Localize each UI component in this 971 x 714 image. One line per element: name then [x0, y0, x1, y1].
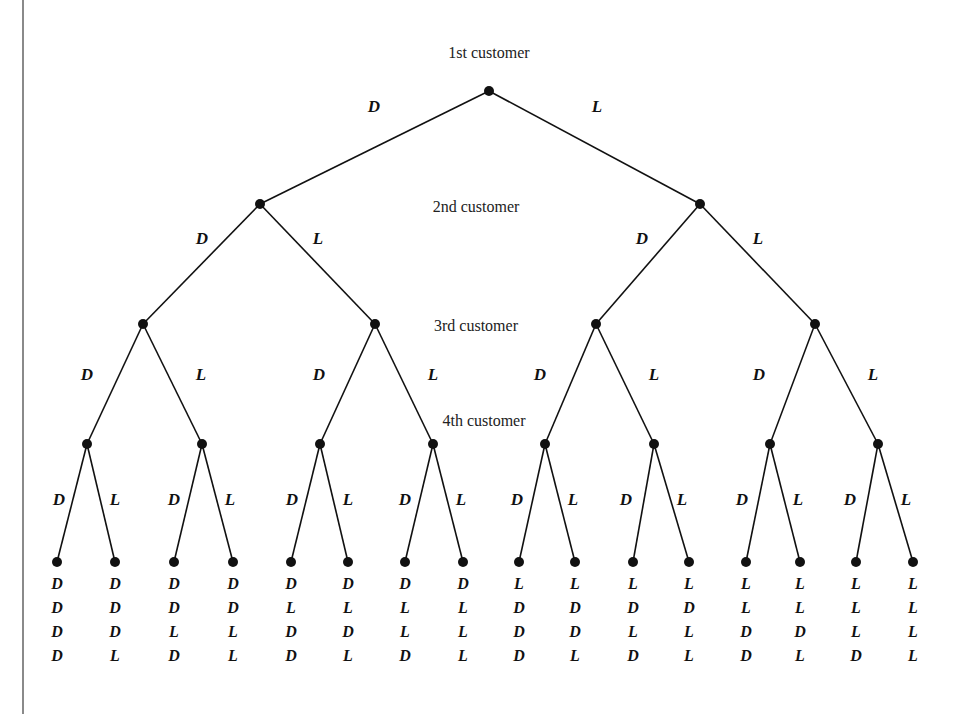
branch-label-D: D [195, 229, 208, 248]
outcome-symbol: L [907, 647, 918, 664]
branch-label-D: D [398, 490, 411, 509]
branch-label-D: D [285, 490, 298, 509]
branch-edge-L [260, 204, 375, 324]
outcome-symbol: D [284, 623, 297, 640]
branch-edge-D [143, 204, 260, 324]
level-label-4th-customer: 4th customer [442, 412, 526, 429]
outcome-symbol: L [907, 599, 918, 616]
outcome-symbol: D [108, 575, 121, 592]
outcome-symbol: D [167, 575, 180, 592]
leaf-node [628, 557, 638, 567]
branch-label-L: L [648, 365, 659, 384]
branch-label-L: L [900, 490, 911, 509]
decision-node [873, 439, 883, 449]
branch-label-L: L [224, 490, 235, 509]
decision-node [428, 439, 438, 449]
leaf-node [400, 557, 410, 567]
outcome-symbol: L [342, 647, 353, 664]
branch-label-L: L [752, 229, 763, 248]
branch-label-L: L [342, 490, 353, 509]
branch-label-D: D [843, 490, 856, 509]
outcome-symbol: D [50, 623, 63, 640]
outcome-symbol: D [167, 599, 180, 616]
outcome-symbol: L [740, 599, 751, 616]
outcome-symbol: L [683, 575, 694, 592]
leaf-node [570, 557, 580, 567]
outcome-symbol: D [512, 623, 525, 640]
branch-label-L: L [195, 365, 206, 384]
outcome-symbol: L [569, 575, 580, 592]
leaf-node [110, 557, 120, 567]
branch-label-L: L [792, 490, 803, 509]
outcome-symbol: L [683, 623, 694, 640]
decision-node [695, 199, 705, 209]
leaf-node [458, 557, 468, 567]
probability-tree-diagram: 1st customer 2nd customer 3rd customer 4… [0, 0, 971, 714]
level-label-1st-customer: 1st customer [448, 44, 530, 61]
decision-node [255, 199, 265, 209]
outcome-symbol: D [626, 647, 639, 664]
outcome-symbol: L [227, 647, 238, 664]
outcome-symbol: D [682, 599, 695, 616]
branch-edge-L [143, 324, 202, 444]
outcome-symbol: D [456, 575, 469, 592]
outcome-symbol: L [227, 623, 238, 640]
branch-label-L: L [312, 229, 323, 248]
outcome-symbol: D [512, 599, 525, 616]
decision-node [197, 439, 207, 449]
outcome-symbol: L [850, 575, 861, 592]
branch-label-L: L [567, 490, 578, 509]
branch-edge-L [700, 204, 815, 324]
branch-label-L: L [455, 490, 466, 509]
leaf-node [169, 557, 179, 567]
branch-label-D: D [533, 365, 546, 384]
outcome-symbol: L [627, 623, 638, 640]
decision-node [315, 439, 325, 449]
outcome-symbol: L [168, 623, 179, 640]
outcome-symbol: D [739, 623, 752, 640]
branch-label-L: L [867, 365, 878, 384]
decision-node [540, 439, 550, 449]
decision-node [649, 439, 659, 449]
branch-label-D: D [619, 490, 632, 509]
branch-label-L: L [109, 490, 120, 509]
outcome-sequences: DDDDDDDLDDLDDDLLDLDDDLDLDLLDDLLLLDDDLDDL… [50, 575, 918, 664]
leaf-node [228, 557, 238, 567]
branch-label-D: D [80, 365, 93, 384]
outcome-symbol: D [108, 623, 121, 640]
branch-label-D: D [635, 229, 648, 248]
outcome-symbol: D [793, 623, 806, 640]
outcome-symbol: D [341, 623, 354, 640]
outcome-symbol: D [849, 647, 862, 664]
branch-edge-L [815, 324, 878, 444]
leaf-node [52, 557, 62, 567]
decision-node [765, 439, 775, 449]
branch-label-L: L [676, 490, 687, 509]
branch-label-D: D [367, 97, 380, 116]
branch-edge-D [596, 204, 700, 324]
outcome-symbol: L [285, 599, 296, 616]
outcome-symbol: L [907, 575, 918, 592]
outcome-symbol: D [626, 599, 639, 616]
outcome-symbol: L [850, 623, 861, 640]
decision-node [138, 319, 148, 329]
outcome-symbol: L [342, 599, 353, 616]
outcome-symbol: L [457, 599, 468, 616]
outcome-symbol: D [226, 575, 239, 592]
outcome-symbol: L [794, 599, 805, 616]
outcome-symbol: L [627, 575, 638, 592]
branch-edge-D [746, 444, 770, 562]
outcome-symbol: D [50, 599, 63, 616]
branch-edge-D [770, 324, 815, 444]
leaf-node [286, 557, 296, 567]
outcome-symbol: D [50, 647, 63, 664]
outcome-symbol: D [108, 599, 121, 616]
branch-edge-L [596, 324, 654, 444]
outcome-symbol: D [568, 623, 581, 640]
outcome-symbol: D [341, 575, 354, 592]
branch-label-D: D [52, 490, 65, 509]
branch-edge-D [87, 324, 143, 444]
outcome-symbol: D [739, 647, 752, 664]
leaf-node [514, 557, 524, 567]
branch-labels: DLDLDLDLDLDLDLDLDLDLDLDLDLDLDL [52, 97, 911, 509]
